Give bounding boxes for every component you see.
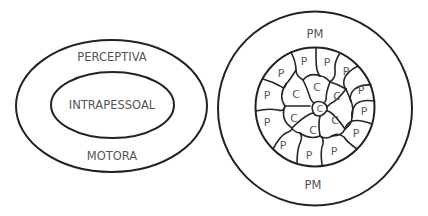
p-cell-label: P [264,89,271,102]
label-intrapessoal: INTRAPESSOAL [69,98,156,112]
diagram-canvas: PERCEPTIVA INTRAPESSOAL MOTORA PM PM [0,0,428,216]
c-cell-label: C [333,90,341,103]
p-cell-label: P [358,84,365,97]
label-motora: MOTORA [87,149,138,163]
p-cell-label: P [361,105,368,118]
p-cell-label: P [331,145,338,158]
right-cell-diagram: PM PM [218,12,412,206]
p-cell-label: P [306,149,313,162]
p-cell-label: P [278,67,285,80]
c-cell-label: C [292,88,300,101]
label-pm-bottom: PM [305,178,322,192]
p-cell-label: P [324,56,331,69]
p-cell-label: P [343,65,350,78]
left-nested-ellipses: PERCEPTIVA INTRAPESSOAL MOTORA [16,40,207,172]
p-cell-label: P [280,139,287,152]
p-cell-label: P [353,127,360,140]
c-cell-label: C [313,81,321,94]
c-cell-label: C [331,114,339,127]
c-cell-label-center: C [317,104,323,114]
central-cell-labels: C C C C C C C [290,81,341,137]
p-cell-label: P [301,55,308,68]
c-cell-label: C [309,124,317,137]
c-cell-label: C [290,112,298,125]
p-cell-label: P [264,116,271,129]
label-perceptiva: PERCEPTIVA [77,50,146,64]
label-pm-top: PM [307,27,324,41]
